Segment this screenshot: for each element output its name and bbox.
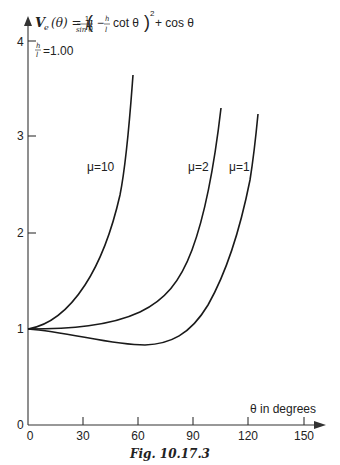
label-mu-1: μ=1 [229,160,250,174]
formula-frac-den: sin θ [76,26,94,34]
y-tick-4: 4 [17,35,24,49]
curves [28,75,258,345]
formula-minus: − [97,16,104,30]
potential-energy-chart: 0 1 2 3 4 0 30 60 90 120 150 θ in degree… [0,0,340,465]
x-axis-arrow-icon [314,421,326,429]
y-tick-0: 0 [17,418,24,432]
y-tick-2: 2 [17,226,24,240]
curve-mu-10 [28,75,133,329]
y-tick-1: 1 [17,322,24,336]
axes [28,20,318,425]
ratio-h: h [36,42,41,50]
x-tick-labels: 0 30 60 90 120 150 [27,429,315,443]
formula-sub: e [44,23,49,32]
label-mu-2: μ=2 [188,160,209,174]
ratio-l: l [36,51,38,59]
x-tick-60: 60 [131,429,145,443]
curve-labels: μ=10 μ=2 μ=1 [87,160,250,174]
formula-frac-num: 1 [85,15,89,22]
ratio-note: h l =1.00 [35,42,74,59]
x-tick-0: 0 [27,429,34,443]
y-tick-labels: 0 1 2 3 4 [17,35,24,432]
x-tick-30: 30 [76,429,90,443]
formula-h: h [105,15,110,23]
y-axis-arrow-icon [24,16,32,26]
x-tick-90: 90 [186,429,200,443]
curve-mu-2 [28,108,221,329]
ratio-value: =1.00 [43,44,74,58]
y-tick-3: 3 [17,129,24,143]
formula-l: l [105,26,107,34]
x-axis-label: θ in degrees [250,402,316,416]
formula: V e (θ) = μ ( 1 sin θ − h l cot θ ) 2 + … [35,9,194,34]
x-tick-120: 120 [238,429,258,443]
formula-cot: cot θ [113,16,139,30]
formula-tail: + cos θ [155,16,194,30]
figure-caption: Fig. 10.17.3 [129,447,210,461]
label-mu-10: μ=10 [87,160,115,174]
x-tick-150: 150 [294,429,314,443]
